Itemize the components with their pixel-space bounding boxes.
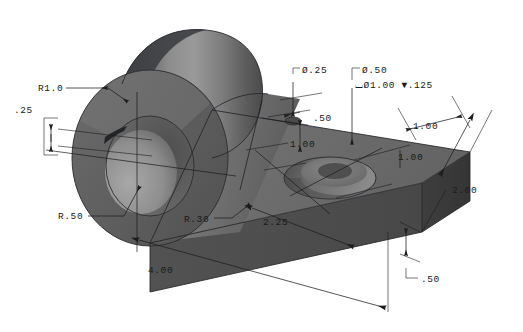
dim-25-label: .25: [14, 105, 33, 116]
dim-100-a-label: 1.00: [290, 139, 315, 150]
dim-counterbore-label: ⌴Ø1.00 ▼.125: [355, 80, 433, 91]
dim-dia-25-label: Ø.25: [302, 65, 327, 76]
drawing-sheet: R1.0 .25 R.50 R.30 Ø.: [0, 0, 523, 332]
dim-200-label: 2.00: [452, 185, 477, 196]
dim-r-50-label: R.50: [58, 211, 83, 222]
dim-dia-50-label: Ø.50: [362, 65, 387, 76]
dim-400-label: 4.00: [148, 265, 173, 276]
dim-100-b: 1.00: [398, 96, 470, 140]
bore-inner-surface: [105, 130, 177, 214]
dim-r1-0-label: R1.0: [38, 83, 63, 94]
isometric-part-drawing: R1.0 .25 R.50 R.30 Ø.: [0, 0, 523, 332]
dim-dia-50: Ø.50 ⌴Ø1.00 ▼.125: [352, 65, 433, 145]
pilot-hole: [318, 163, 352, 179]
dim-50-top-label: .50: [313, 113, 332, 124]
dim-r-30-label: R.30: [184, 214, 209, 225]
dim-225-label: 2.25: [263, 217, 288, 228]
dim-dia-25: Ø.25: [293, 65, 327, 117]
dim-50-bot-label: .50: [421, 274, 440, 285]
dim-100-c-label: 1.00: [398, 152, 423, 163]
dim-100-b-label: 1.00: [413, 121, 438, 132]
